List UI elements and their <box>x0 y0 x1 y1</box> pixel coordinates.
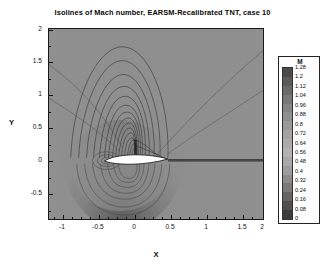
x-tick-major <box>135 215 136 219</box>
colorbar-tick-label: 1.28 <box>295 65 306 71</box>
colorbar-tick-label: 0.56 <box>295 150 306 156</box>
colorbar-swatch <box>283 95 292 104</box>
colorbar-tick-label: 0.32 <box>295 178 306 184</box>
x-tick-major <box>171 215 172 219</box>
colorbar-swatch <box>283 183 292 192</box>
y-tick-minor <box>49 46 51 47</box>
colorbar-tick-label: 1.2 <box>295 74 303 80</box>
colorbar-labels: 1.281.21.121.040.960.880.80.720.640.560.… <box>295 65 321 222</box>
colorbar-tick-label: 0.8 <box>295 122 303 128</box>
colorbar-tick-label: 0.16 <box>295 197 306 203</box>
x-tick-major <box>99 215 100 219</box>
colorbar-tick-label: 1.04 <box>295 93 306 99</box>
colorbar-tick-label: 0.96 <box>295 103 306 109</box>
y-tick-label: 1 <box>20 90 42 97</box>
colorbar-swatch <box>283 157 292 166</box>
x-tick-label: 0 <box>121 223 147 230</box>
colorbar-swatch <box>283 104 292 113</box>
y-tick-major <box>49 62 53 63</box>
y-tick-minor <box>49 112 51 113</box>
y-tick-minor <box>49 145 51 146</box>
plot-frame <box>48 28 264 220</box>
y-tick-label: 0 <box>20 156 42 163</box>
x-tick-minor <box>153 217 154 219</box>
x-tick-major <box>63 215 64 219</box>
y-tick-major <box>49 128 53 129</box>
y-axis-label: Y <box>9 118 14 127</box>
colorbar-tick-label: 0.4 <box>295 169 303 175</box>
x-tick-label: -0.5 <box>85 223 111 230</box>
y-tick-major <box>49 194 53 195</box>
x-tick-minor <box>252 217 253 219</box>
figure-root: Isolines of Mach number, EARSM-Recalibra… <box>0 0 325 280</box>
y-tick-label: 0.5 <box>20 123 42 130</box>
y-tick-major <box>49 161 53 162</box>
colorbar-swatch <box>283 130 292 139</box>
colorbar-tick-label: 0.24 <box>295 188 306 194</box>
y-tick-label: -0.5 <box>20 189 42 196</box>
colorbar-swatch <box>283 77 292 86</box>
colorbar-swatch <box>283 148 292 157</box>
colorbar-gradient <box>282 67 293 220</box>
colorbar-tick-label: 0.64 <box>295 141 306 147</box>
figure-title: Isolines of Mach number, EARSM-Recalibra… <box>0 8 325 17</box>
y-tick-major <box>49 95 53 96</box>
x-tick-major <box>207 215 208 219</box>
x-tick-minor <box>108 217 109 219</box>
y-tick-minor <box>49 178 51 179</box>
colorbar-swatch <box>283 175 292 184</box>
colorbar-swatch <box>283 192 292 201</box>
colorbar-swatch <box>283 121 292 130</box>
colorbar-legend: M 1.281.21.121.040.960.880.80.720.640.56… <box>278 56 320 224</box>
colorbar-tick-label: 0.48 <box>295 159 306 165</box>
y-tick-minor <box>49 211 51 212</box>
x-tick-label: -1 <box>49 223 75 230</box>
colorbar-swatch <box>283 210 292 219</box>
y-tick-label: 2 <box>20 25 42 32</box>
x-tick-minor <box>225 217 226 219</box>
x-axis-label: X <box>0 250 312 259</box>
colorbar-tick-label: 0.08 <box>295 207 306 213</box>
x-tick-minor <box>162 217 163 219</box>
x-tick-minor <box>72 217 73 219</box>
colorbar-swatch <box>283 86 292 95</box>
y-tick-label: 1.5 <box>20 57 42 64</box>
x-tick-label: 1 <box>193 223 219 230</box>
y-tick-major <box>49 30 53 31</box>
x-tick-major <box>243 215 244 219</box>
x-tick-minor <box>189 217 190 219</box>
x-tick-minor <box>198 217 199 219</box>
x-tick-minor <box>90 217 91 219</box>
x-tick-minor <box>117 217 118 219</box>
colorbar-tick-label: 0.88 <box>295 112 306 118</box>
x-tick-label: 0.5 <box>157 223 183 230</box>
colorbar-swatch <box>283 112 292 121</box>
contour-plot-canvas <box>49 29 263 219</box>
colorbar-swatch <box>283 201 292 210</box>
x-tick-label: 2 <box>249 223 275 230</box>
x-tick-minor <box>144 217 145 219</box>
x-tick-major <box>263 215 264 219</box>
x-tick-minor <box>234 217 235 219</box>
x-tick-minor <box>180 217 181 219</box>
x-tick-minor <box>54 217 55 219</box>
y-tick-minor <box>49 79 51 80</box>
x-tick-minor <box>216 217 217 219</box>
colorbar-swatch <box>283 166 292 175</box>
colorbar-tick-label: 1.12 <box>295 84 306 90</box>
colorbar-swatch <box>283 68 292 77</box>
colorbar-tick-label: 0.72 <box>295 131 306 137</box>
x-tick-minor <box>126 217 127 219</box>
colorbar-swatch <box>283 139 292 148</box>
colorbar-tick-label: 0 <box>295 216 298 222</box>
x-tick-minor <box>81 217 82 219</box>
